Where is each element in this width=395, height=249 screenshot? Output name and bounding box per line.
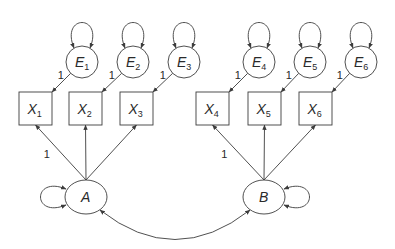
loading-label: 1 — [160, 69, 166, 81]
variance-loop-e6 — [350, 23, 372, 49]
loading-a-to-x3 — [86, 125, 137, 180]
loading-b-to-x4 — [213, 125, 265, 180]
covariance-a-b — [100, 210, 250, 240]
loading-b-to-x6 — [264, 125, 316, 180]
loading-label: 1 — [58, 69, 64, 81]
variance-loop-e5 — [299, 23, 321, 49]
variance-loop-b — [284, 186, 310, 208]
loading-label: 1 — [109, 69, 115, 81]
latent-label: B — [259, 189, 268, 205]
loading-a-to-x2 — [86, 125, 87, 180]
variance-loop-a — [41, 186, 67, 208]
variance-loop-e4 — [248, 23, 270, 49]
sem-diagram: 1E11E21E31E41E51E6X1X2X3X4X5X61A1B — [0, 0, 395, 249]
fixed-loading-label: 1 — [221, 148, 227, 160]
variance-loop-e1 — [71, 23, 93, 49]
loading-label: 1 — [286, 69, 292, 81]
fixed-loading-label: 1 — [44, 148, 50, 160]
loading-b-to-x5 — [264, 125, 265, 180]
variance-loop-e3 — [173, 23, 195, 49]
nodes — [19, 46, 377, 214]
loading-label: 1 — [337, 69, 343, 81]
latent-label: A — [80, 189, 90, 205]
variance-loop-e2 — [122, 23, 144, 49]
loading-label: 1 — [235, 69, 241, 81]
